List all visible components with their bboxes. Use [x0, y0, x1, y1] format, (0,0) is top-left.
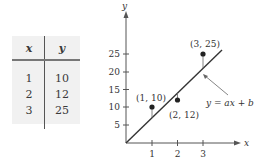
point-label: (2, 12) [169, 110, 199, 120]
y-tick-label: 15 [109, 85, 121, 95]
y-tick-label: 20 [109, 67, 121, 77]
x-axis-label: x [244, 138, 249, 148]
leader-arrow-icon [203, 74, 208, 79]
x-tick-label: 1 [149, 149, 155, 159]
y-axis-label: y [121, 1, 128, 11]
leader-line [204, 75, 228, 95]
x-axis-arrow-icon [234, 141, 241, 146]
x-tick-label: 3 [200, 149, 206, 159]
y-tick-label: 10 [109, 102, 121, 112]
y-tick-label: 5 [114, 120, 120, 130]
equation-label: y = ax + b [205, 98, 254, 108]
data-point [149, 104, 154, 109]
data-point [175, 97, 180, 102]
data-point [200, 51, 205, 56]
point-label: (3, 25) [190, 39, 220, 49]
y-axis-arrow-icon [124, 11, 129, 18]
scatter-graph: y x 5 10 15 20 25 1 2 3 (1, 10) (2, 12) … [0, 0, 267, 166]
y-tick-label: 25 [109, 49, 121, 59]
point-label: (1, 10) [136, 93, 166, 103]
x-tick-label: 2 [175, 149, 181, 159]
